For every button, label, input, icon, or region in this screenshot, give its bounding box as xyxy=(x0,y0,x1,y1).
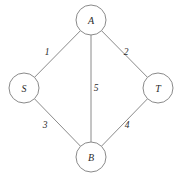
edge-weight-b-t: 4 xyxy=(125,120,130,130)
node-s-label: S xyxy=(22,83,27,94)
edge-weight-a-t: 2 xyxy=(124,47,129,57)
edge-weights-group: 1 2 3 4 5 xyxy=(42,47,130,130)
edge-weight-s-a: 1 xyxy=(45,47,50,57)
edge-weight-s-b: 3 xyxy=(42,120,48,130)
edge-s-b[interactable] xyxy=(34,99,80,146)
edge-weight-a-b: 5 xyxy=(94,83,99,93)
node-labels-group: A S T B xyxy=(22,15,163,163)
graph-canvas: A S T B 1 2 3 4 5 xyxy=(0,0,180,177)
edges-group xyxy=(34,31,147,147)
node-a-label: A xyxy=(87,15,95,26)
graph-diagram: A S T B 1 2 3 4 5 xyxy=(0,0,180,177)
node-b-label: B xyxy=(88,152,94,163)
edge-s-a[interactable] xyxy=(35,31,81,78)
